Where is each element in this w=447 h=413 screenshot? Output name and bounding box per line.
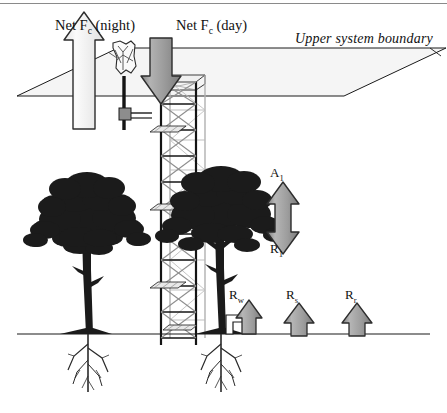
root-respiration-arrow (342, 303, 372, 336)
woody-respiration-arrow (226, 300, 262, 334)
soil-respiration-label: Rs (286, 288, 298, 304)
net-fc-day-label: Net Fc (day) (176, 18, 247, 35)
net-fc-night-label: Net Fc (night) (55, 18, 135, 35)
leaf-respiration-label: R1 (270, 242, 283, 258)
tree-silhouette-left (23, 172, 151, 392)
tree-silhouette-right (155, 166, 287, 392)
upper-system-boundary-label: Upper system boundary (295, 32, 433, 46)
diagram-canvas (0, 0, 447, 413)
flux-tower-diagram: Net Fc (night) Net Fc (day) Upper system… (0, 0, 447, 413)
root-respiration-label: Rr (345, 288, 357, 304)
woody-respiration-label: Rw (229, 288, 244, 304)
assimilation-label: A1 (270, 166, 284, 182)
soil-respiration-arrow (284, 303, 314, 336)
